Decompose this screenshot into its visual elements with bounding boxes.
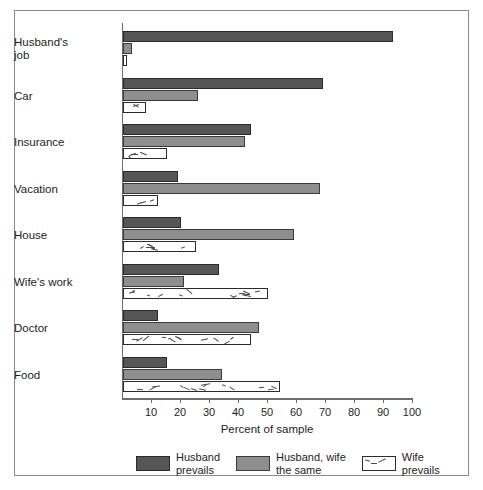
hatch-speck [131, 154, 138, 155]
hatch-speck [143, 336, 150, 342]
bar-group: Wife's work [123, 259, 412, 306]
legend-label: Husband prevails [176, 451, 220, 476]
hatch-speck [233, 295, 237, 297]
axis-tick [180, 398, 181, 403]
bar-dark[interactable] [123, 124, 251, 135]
axis-tick-label: 100 [403, 406, 421, 418]
bar-group: Doctor [123, 305, 412, 352]
bar-medium[interactable] [123, 276, 184, 287]
bar-light[interactable] [123, 55, 127, 66]
bar-light[interactable] [123, 241, 196, 252]
bar-medium[interactable] [123, 43, 132, 54]
axis-tick-label: 70 [319, 406, 331, 418]
hatch-speck [171, 339, 176, 343]
bar-light[interactable] [123, 334, 251, 345]
axis-tick-label: 40 [232, 406, 244, 418]
legend-swatch-light [362, 456, 396, 471]
hatch-speck [140, 246, 144, 249]
hatch-speck [186, 289, 192, 294]
hatch-speck [162, 337, 166, 339]
hatch-speck [146, 247, 155, 248]
axis-tick [383, 398, 384, 403]
hatch-speck [158, 294, 163, 297]
hatch-speck [229, 387, 235, 391]
category-label: Car [14, 89, 109, 102]
bar-light[interactable] [123, 102, 146, 113]
category-label: Doctor [14, 322, 109, 335]
axis-tick [267, 398, 268, 403]
hatch-speck [137, 389, 143, 390]
x-axis-title: Percent of sample [122, 423, 412, 435]
hatch-speck [365, 459, 370, 462]
hatch-speck [181, 246, 185, 249]
bar-medium[interactable] [123, 229, 294, 240]
axis-tick [354, 398, 355, 403]
bar-medium[interactable] [123, 369, 222, 380]
hatch-speck [128, 155, 132, 158]
bar-dark[interactable] [123, 264, 219, 275]
bar-light[interactable] [123, 381, 280, 392]
legend-swatch-dark [136, 456, 170, 471]
legend-label: Wife prevails [402, 451, 440, 476]
hatch-speck [371, 463, 377, 464]
axis-tick-label: 10 [145, 406, 157, 418]
bar-medium[interactable] [123, 183, 320, 194]
hatch-speck [140, 201, 146, 204]
legend-entry[interactable]: Wife prevails [362, 451, 440, 476]
hatch-speck [213, 337, 218, 341]
hatch-speck [268, 388, 274, 390]
hatch-speck [147, 294, 150, 296]
hatch-speck [224, 341, 230, 345]
legend-swatch-medium [236, 456, 270, 471]
hatch-speck [150, 200, 154, 202]
category-label: Vacation [14, 182, 109, 195]
bar-group: Car [123, 73, 412, 120]
bar-group: Food [123, 352, 412, 399]
hatch-speck [140, 151, 146, 154]
bar-light[interactable] [123, 288, 268, 299]
figure-frame: Husband's jobCarInsuranceVacationHouseWi… [14, 10, 469, 476]
category-label: Food [14, 368, 109, 381]
bar-dark[interactable] [123, 78, 323, 89]
axis-tick-label: 50 [261, 406, 273, 418]
hatch-speck [259, 387, 264, 389]
hatch-speck [201, 338, 208, 340]
axis-tick [209, 398, 210, 403]
axis-tick-label: 80 [348, 406, 360, 418]
axis-tick-label: 90 [377, 406, 389, 418]
hatch-speck [176, 336, 182, 340]
hatch-speck [179, 294, 183, 296]
category-label: Husband's job [14, 36, 109, 62]
hatch-speck [222, 384, 226, 386]
category-label: House [14, 229, 109, 242]
category-label: Wife's work [14, 275, 109, 288]
axis-tick [412, 398, 413, 403]
category-label: Insurance [14, 136, 109, 149]
axis-tick [238, 398, 239, 403]
bar-group: Vacation [123, 166, 412, 213]
plot-area: Husband's jobCarInsuranceVacationHouseWi… [122, 23, 412, 398]
bar-group: Insurance [123, 119, 412, 166]
hatch-speck [379, 458, 387, 463]
axis-tick-label: 20 [174, 406, 186, 418]
legend-label: Husband, wife the same [276, 451, 346, 476]
bar-dark[interactable] [123, 310, 158, 321]
bar-dark[interactable] [123, 31, 393, 42]
legend-entry[interactable]: Husband prevails [136, 451, 220, 476]
axis-tick [151, 398, 152, 403]
bar-dark[interactable] [123, 171, 178, 182]
hatch-speck [255, 290, 260, 292]
axis-tick-label: 60 [290, 406, 302, 418]
bar-medium[interactable] [123, 136, 245, 147]
bar-medium[interactable] [123, 322, 259, 333]
hatch-speck [183, 387, 190, 391]
bar-dark[interactable] [123, 357, 167, 368]
bar-dark[interactable] [123, 217, 181, 228]
hatch-speck [199, 388, 206, 391]
bar-light[interactable] [123, 148, 167, 159]
bar-group: Husband's job [123, 26, 412, 73]
hatch-speck [191, 388, 197, 391]
bar-medium[interactable] [123, 90, 198, 101]
bar-light[interactable] [123, 195, 158, 206]
legend-entry[interactable]: Husband, wife the same [236, 451, 346, 476]
